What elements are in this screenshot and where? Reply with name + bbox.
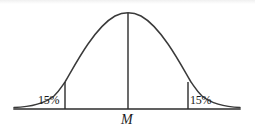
mean-label: M (121, 113, 133, 127)
left-tail-percent-label: 15% (38, 94, 59, 106)
right-tail-percent-label: 15% (190, 94, 211, 106)
normal-curve-figure: 15% 15% M (0, 0, 255, 134)
